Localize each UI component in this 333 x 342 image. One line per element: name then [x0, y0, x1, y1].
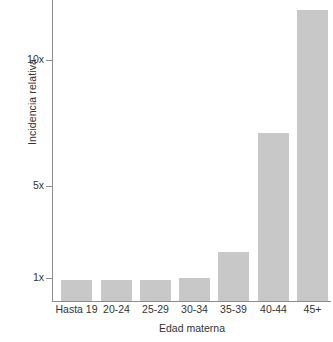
y-tick-mark — [46, 60, 52, 61]
bar-chart: Incidencia relativa 10x5x1x Hasta 1920-2… — [0, 0, 333, 342]
x-tick-label: 45+ — [278, 303, 333, 315]
y-tick-label: 10x — [0, 53, 44, 65]
bar — [101, 280, 132, 301]
y-axis-title: Incidencia relativa — [26, 22, 38, 182]
x-axis-title: Edad materna — [53, 322, 331, 334]
x-axis-tick-labels: Hasta 1920-2425-2930-3435-3940-4445+ — [53, 303, 331, 319]
y-tick-label: 1x — [0, 271, 44, 283]
bar — [218, 252, 249, 301]
x-axis-line — [52, 301, 331, 302]
bar — [179, 278, 210, 301]
bar — [258, 133, 289, 301]
y-tick-mark — [46, 278, 52, 279]
plot-area — [53, 0, 331, 301]
y-tick-label: 5x — [0, 179, 44, 191]
y-tick-mark — [46, 186, 52, 187]
bar — [61, 280, 92, 301]
bar — [140, 280, 171, 301]
bar — [297, 10, 328, 301]
